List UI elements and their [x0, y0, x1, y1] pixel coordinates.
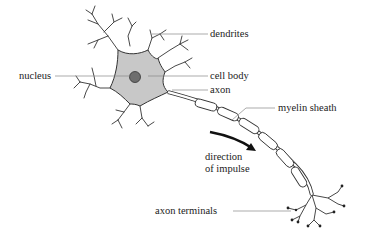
nucleus-drawing [130, 72, 141, 83]
label-axon: axon [210, 84, 230, 95]
neuron-diagram [0, 0, 365, 231]
leader-lines [55, 34, 291, 211]
direction-arrow [210, 132, 252, 148]
label-nucleus: nucleus [19, 70, 51, 81]
label-cell-body: cell body [210, 70, 249, 81]
label-myelin-sheath: myelin sheath [278, 102, 337, 113]
label-direction-line2: of impulse [205, 163, 250, 174]
label-direction-line1: direction [205, 151, 242, 162]
label-dendrites: dendrites [210, 28, 249, 39]
axon-terminals-drawing [288, 186, 344, 226]
label-axon-terminals: axon terminals [155, 205, 217, 216]
